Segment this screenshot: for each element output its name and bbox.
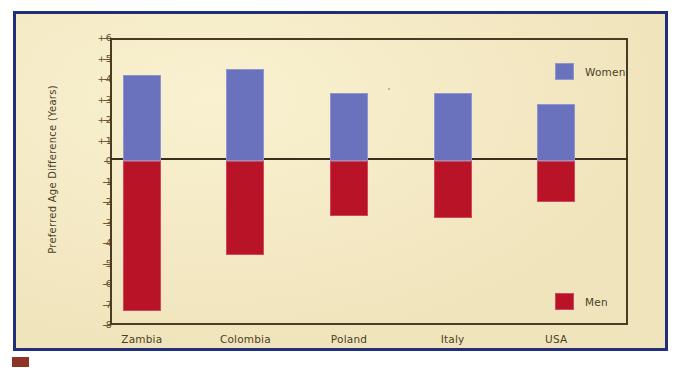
x-axis-label-poland: Poland [294, 333, 404, 345]
bar-zambia-women [123, 75, 161, 161]
y-axis-tick-mark [104, 325, 111, 326]
figure-plate: Preferred Age Difference (Years) +6+5+4+… [13, 11, 668, 351]
bar-colombia-women [226, 69, 264, 161]
legend-item-men: Men [555, 293, 608, 310]
legend-label-women: Women [585, 66, 626, 78]
bar-colombia-men [226, 161, 264, 255]
legend-swatch-women-icon [555, 63, 574, 80]
bar-usa-men [537, 161, 575, 202]
bar-poland-men [330, 161, 368, 216]
caption-color-marker [12, 357, 29, 367]
paper-speck-artifact [388, 88, 390, 90]
bar-zambia-men [123, 161, 161, 311]
bar-usa-women [537, 104, 575, 161]
y-axis-title: Preferred Age Difference (Years) [47, 50, 58, 290]
x-axis-label-italy: Italy [398, 333, 508, 345]
legend-item-women: Women [555, 63, 626, 80]
bar-italy-women [434, 93, 472, 161]
x-axis-label-usa: USA [501, 333, 611, 345]
x-axis-label-zambia: Zambia [87, 333, 197, 345]
legend-swatch-men-icon [555, 293, 574, 310]
bar-italy-men [434, 161, 472, 218]
x-axis-label-colombia: Colombia [190, 333, 300, 345]
bar-poland-women [330, 93, 368, 161]
legend-label-men: Men [585, 296, 608, 308]
